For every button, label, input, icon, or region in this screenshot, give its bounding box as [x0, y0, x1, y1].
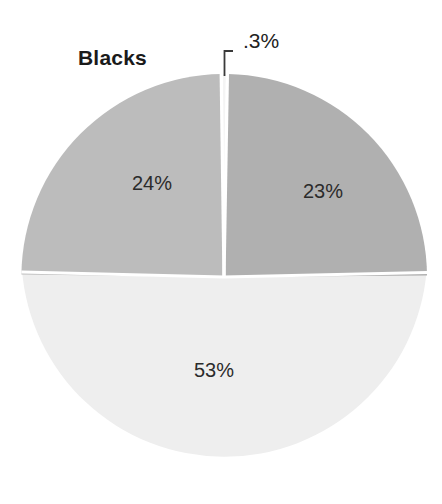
pie-chart-figure: Blacks 24% 23% 53% .3% [0, 0, 442, 504]
pie-chart-canvas [0, 0, 442, 504]
slice-label-53: 53% [194, 359, 234, 382]
chart-title: Blacks [78, 46, 147, 70]
pie-slice-23 [224, 74, 427, 277]
callout-leader-line [225, 51, 234, 76]
slice-label-23: 23% [303, 180, 343, 203]
slice-label-03: .3% [243, 29, 279, 53]
slice-label-24: 24% [132, 172, 172, 195]
pie-slice-24 [21, 74, 224, 277]
